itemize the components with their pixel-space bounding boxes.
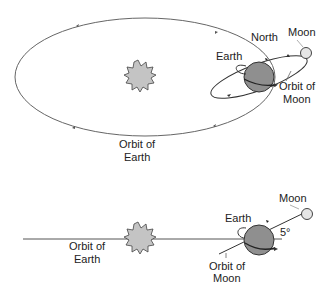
label-earth: Earth bbox=[216, 50, 242, 62]
label-moon: Moon bbox=[288, 26, 316, 38]
orbit-arrow-icon bbox=[286, 54, 290, 57]
moon-globe bbox=[302, 209, 313, 220]
label-orbit-of-moon-2: Moon bbox=[213, 272, 241, 283]
label-orbit-of-earth-1: Orbit of bbox=[119, 138, 156, 150]
label-orbit-of-earth-2: Earth bbox=[124, 151, 150, 163]
side-view: Moon Earth 5° Orbit of Earth Orbit of Mo… bbox=[23, 192, 313, 283]
label-angle: 5° bbox=[280, 226, 291, 238]
orbit-arrow-icon bbox=[215, 31, 218, 34]
label-orbit-of-earth-2: Earth bbox=[74, 253, 100, 265]
label-orbit-of-earth-1: Orbit of bbox=[69, 240, 106, 252]
label-orbit-of-moon-1: Orbit of bbox=[279, 80, 316, 92]
moon-globe bbox=[301, 48, 312, 59]
sun-icon bbox=[124, 60, 156, 92]
label-earth: Earth bbox=[225, 212, 251, 224]
north-arrow-icon bbox=[266, 220, 269, 223]
earth-globe bbox=[244, 62, 274, 92]
earth-globe bbox=[244, 225, 274, 255]
sun-icon bbox=[124, 222, 156, 254]
orbit-arrow-icon bbox=[227, 94, 231, 97]
label-moon: Moon bbox=[279, 192, 307, 204]
top-view: North Moon Earth Orbit of Moon Orbit of … bbox=[15, 18, 316, 163]
label-orbit-of-moon-1: Orbit of bbox=[209, 260, 246, 272]
label-orbit-of-moon-2: Moon bbox=[283, 93, 311, 105]
label-north: North bbox=[251, 31, 278, 43]
earth-moon-orbit-diagram: North Moon Earth Orbit of Moon Orbit of … bbox=[0, 0, 334, 283]
